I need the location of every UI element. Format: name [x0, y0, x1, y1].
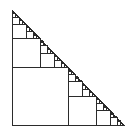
recursive-triangle-diagram [0, 0, 129, 133]
figure-container: Recursive inscribed squares in a right t… [0, 0, 129, 133]
